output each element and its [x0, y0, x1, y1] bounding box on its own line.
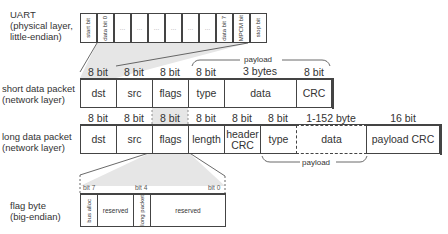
uart-cell-ellipsis: …	[131, 13, 148, 43]
short-packet-label-line: short data packet	[2, 83, 75, 94]
short-field-dst: dst	[80, 79, 117, 108]
long-payload-label: payload	[302, 158, 330, 167]
uart-cell-ellipsis: …	[182, 13, 199, 43]
long-field-src: src	[116, 125, 153, 154]
long-packet-label: long data packet (network layer)	[2, 131, 72, 153]
short-width-dst: 8 bit	[80, 66, 116, 78]
flag-field-reserved-low: reserved	[150, 194, 226, 227]
long-width-payload-crc: 16 bit	[366, 112, 440, 124]
uart-cell-mpcm-bit: MPCM bit	[233, 13, 250, 43]
short-width-type: 8 bit	[188, 66, 224, 78]
long-width-dst: 8 bit	[80, 112, 116, 124]
short-width-flags: 8 bit	[152, 66, 188, 78]
uart-cell-ellipsis: …	[114, 13, 131, 43]
short-width-crc: 8 bit	[296, 66, 332, 78]
flag-byte-label: flag byte (big-endian)	[10, 200, 61, 222]
short-field-type: type	[188, 79, 225, 108]
flag-bit7-marker: bit 7	[83, 184, 95, 191]
uart-frame: start bit data bit 0 … … … … … … data bi…	[80, 13, 267, 43]
flag-byte-frame: bus alloc reserved long packet reserved	[80, 193, 226, 229]
long-field-type: type	[260, 125, 297, 154]
uart-cell-stop-bit: stop bit	[250, 13, 267, 43]
long-width-data: 1-152 byte	[296, 112, 366, 124]
short-width-data: 3 bytes	[224, 65, 296, 77]
short-width-src: 8 bit	[116, 66, 152, 78]
uart-cell-ellipsis: …	[165, 13, 182, 43]
short-field-data: data	[224, 79, 297, 108]
short-field-src: src	[116, 79, 153, 108]
short-payload-label: payload	[244, 55, 272, 64]
short-packet-label: short data packet (network layer)	[2, 83, 75, 105]
flag-bit4-marker: bit 4	[135, 184, 147, 191]
flag-field-long-packet: long packet	[133, 194, 151, 227]
uart-label: UART (physical layer, little-endian)	[10, 9, 73, 42]
uart-cell-data-bit-0: data bit 0	[97, 13, 114, 43]
uart-label-line: UART	[10, 9, 73, 20]
short-packet-label-line: (network layer)	[2, 94, 75, 105]
long-field-length: length	[188, 125, 225, 154]
uart-label-line: (physical layer,	[10, 20, 73, 31]
long-field-dst: dst	[80, 125, 117, 154]
short-field-crc: CRC	[296, 79, 332, 108]
long-width-length: 8 bit	[188, 112, 224, 124]
uart-label-line: little-endian)	[10, 31, 73, 42]
long-field-data: data	[296, 125, 367, 154]
flag-field-bus-alloc: bus alloc	[80, 194, 98, 227]
long-width-header-crc: 8 bit	[224, 112, 260, 124]
long-field-payload-crc: payload CRC	[366, 125, 440, 154]
long-packet-frame: dst src flags length header CRC type dat…	[80, 124, 440, 155]
long-packet-label-line: long data packet	[2, 131, 72, 142]
uart-cell-ellipsis: …	[199, 13, 216, 43]
long-width-flags: 8 bit	[152, 112, 188, 124]
uart-cell-ellipsis: …	[148, 13, 165, 43]
flag-byte-label-line: (big-endian)	[10, 211, 61, 222]
long-field-header-crc: header CRC	[224, 125, 261, 154]
short-field-flags: flags	[152, 79, 189, 108]
uart-cell-start-bit: start bit	[80, 13, 97, 43]
uart-cell-data-bit-7: data bit 7	[216, 13, 233, 43]
short-packet-frame: dst src flags type data CRC	[80, 78, 332, 109]
flag-byte-label-line: flag byte	[10, 200, 61, 211]
long-width-src: 8 bit	[116, 112, 152, 124]
flag-field-reserved-high: reserved	[97, 194, 134, 227]
long-field-flags: flags	[152, 125, 189, 154]
long-width-type: 8 bit	[260, 112, 296, 124]
long-packet-label-line: (network layer)	[2, 142, 72, 153]
flag-bit0-marker: bit 0	[208, 184, 220, 191]
